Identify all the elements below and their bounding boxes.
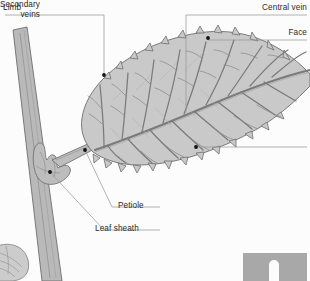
leaf-anatomy-diagram: Limb Central vein Face Secondary veins P… (0, 0, 310, 281)
background-partial-leaf (0, 244, 29, 281)
marker-dot-leaf-sheath (48, 170, 52, 174)
leaf-blade-group (81, 25, 310, 173)
marker-dot-petiole (83, 148, 87, 152)
marker-dot-face (206, 36, 210, 40)
marker-dot-limb (102, 73, 106, 77)
diagram-canvas (0, 0, 310, 281)
marker-dot-secondary-veins (194, 145, 198, 149)
label-central-vein: Central vein (262, 3, 307, 13)
label-petiole: Petiole (118, 201, 144, 211)
label-secondary-veins: Secondary veins (0, 0, 40, 20)
inset-swatch-group (243, 253, 307, 281)
inset-swatch-notch (269, 260, 279, 281)
label-leaf-sheath: Leaf sheath (95, 224, 139, 234)
background-partial-leaf-shape (0, 244, 29, 281)
label-face: Face (288, 28, 307, 38)
